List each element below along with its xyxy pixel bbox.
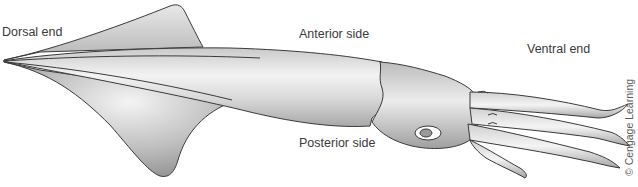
ventral-end-label: Ventral end [527,43,590,56]
copyright-credit: © Cengage Learning [624,79,635,176]
anterior-side-label: Anterior side [299,28,369,41]
dorsal-end-label: Dorsal end [2,26,62,39]
posterior-side-label: Posterior side [299,137,375,150]
squid-diagram: Dorsal end Anterior side Posterior side … [0,0,638,187]
